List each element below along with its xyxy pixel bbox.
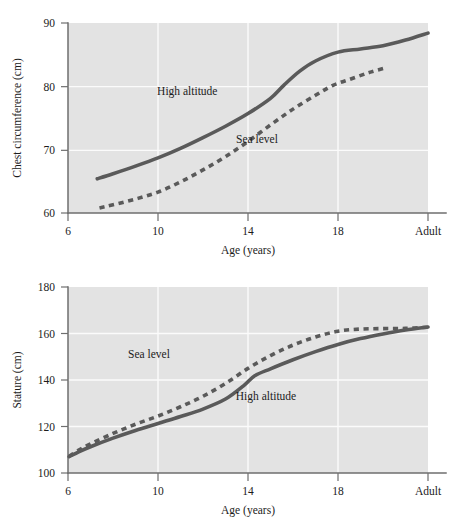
x-axis-ticks xyxy=(68,213,428,221)
y-tick-label-140: 140 xyxy=(38,374,56,386)
stature-svg: 100 120 140 160 180 6 10 14 18 Adult Age… xyxy=(0,265,453,525)
y-axis-ticks xyxy=(61,287,68,473)
chart-chest-circumference: 60 70 80 90 6 10 14 18 Adult Age (years)… xyxy=(0,0,453,265)
y-tick-label-120: 120 xyxy=(38,421,56,433)
y-tick-label-180: 180 xyxy=(38,281,56,293)
y-axis-ticks xyxy=(61,23,68,213)
y-tick-label-100: 100 xyxy=(38,467,56,479)
y-tick-label-90: 90 xyxy=(44,17,56,29)
x-axis-ticks xyxy=(68,473,428,481)
y-tick-label-80: 80 xyxy=(44,81,56,93)
y-axis-title: Stature (cm) xyxy=(11,351,24,408)
y-tick-label-70: 70 xyxy=(44,144,56,156)
series-label-sea-level: Sea level xyxy=(128,348,170,360)
x-tick-label-14: 14 xyxy=(242,485,254,497)
series-label-sea-level: Sea level xyxy=(236,133,278,145)
y-axis-title: Chest circumference (cm) xyxy=(11,58,24,178)
x-tick-label-18: 18 xyxy=(332,225,344,237)
x-tick-label-adult: Adult xyxy=(415,485,442,497)
growth-curves-figure: 60 70 80 90 6 10 14 18 Adult Age (years)… xyxy=(0,0,453,525)
x-tick-label-10: 10 xyxy=(152,225,164,237)
series-label-high-altitude: High altitude xyxy=(157,85,217,98)
x-tick-label-10: 10 xyxy=(152,485,164,497)
x-tick-label-6: 6 xyxy=(65,225,71,237)
x-tick-label-adult: Adult xyxy=(415,225,442,237)
x-axis-title: Age (years) xyxy=(221,244,275,257)
x-axis-title: Age (years) xyxy=(221,504,275,517)
y-tick-label-160: 160 xyxy=(38,328,56,340)
y-tick-label-60: 60 xyxy=(44,207,56,219)
x-tick-label-18: 18 xyxy=(332,485,344,497)
chart-stature: 100 120 140 160 180 6 10 14 18 Adult Age… xyxy=(0,265,453,525)
x-tick-label-14: 14 xyxy=(242,225,254,237)
chest-circumference-svg: 60 70 80 90 6 10 14 18 Adult Age (years)… xyxy=(0,0,453,265)
series-label-high-altitude: High altitude xyxy=(236,390,296,403)
x-tick-label-6: 6 xyxy=(65,485,71,497)
